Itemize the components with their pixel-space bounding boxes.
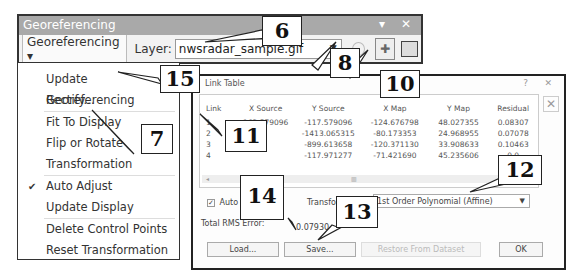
callout-8: 8 [330, 48, 360, 78]
callout-12: 12 [498, 155, 542, 185]
callout-6: 6 [262, 16, 302, 46]
callout-14: 14 [240, 175, 284, 220]
callout-13: 13 [336, 196, 378, 228]
callout-15: 15 [160, 65, 200, 93]
callout-11: 11 [225, 120, 267, 152]
callout-7: 7 [141, 124, 173, 154]
callout-10: 10 [380, 70, 420, 98]
